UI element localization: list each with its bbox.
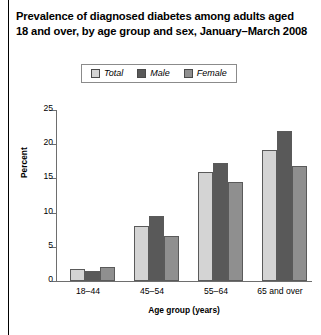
- chart-title: Prevalence of diagnosed diabetes among a…: [16, 9, 308, 39]
- y-tick-label: 25: [43, 104, 53, 113]
- bar-group: [262, 110, 307, 281]
- bar[interactable]: [85, 271, 100, 281]
- bar-group: [198, 110, 243, 281]
- figure: Prevalence of diagnosed diabetes among a…: [0, 0, 321, 335]
- bar[interactable]: [134, 226, 149, 281]
- x-tick-label: 18–44: [56, 287, 120, 296]
- chart-legend: Total Male Female: [81, 64, 237, 83]
- y-axis-line: [56, 110, 57, 282]
- legend-item-total[interactable]: Total: [91, 69, 123, 78]
- plot-area: 0510152025 18–4445–5455–6465 and over Ag…: [56, 110, 312, 281]
- legend-item-female[interactable]: Female: [184, 69, 227, 78]
- legend-label-female: Female: [197, 69, 227, 78]
- y-axis-title: Percent: [20, 147, 28, 178]
- bar[interactable]: [100, 267, 115, 281]
- bar[interactable]: [262, 150, 277, 281]
- legend-swatch-total: [91, 69, 100, 78]
- bar-group: [70, 110, 115, 281]
- legend-swatch-male: [137, 69, 146, 78]
- x-axis-line: [56, 281, 312, 282]
- bar-group: [134, 110, 179, 281]
- bar[interactable]: [213, 163, 228, 281]
- x-tick-label: 65 and over: [248, 287, 312, 296]
- x-tick-label: 45–54: [120, 287, 184, 296]
- bar[interactable]: [228, 182, 243, 281]
- legend-label-male: Male: [150, 69, 170, 78]
- y-tick-label: 20: [43, 138, 53, 147]
- legend-item-male[interactable]: Male: [137, 69, 170, 78]
- x-tick-label: 55–64: [184, 287, 248, 296]
- page-left-rule: [8, 0, 9, 335]
- legend-label-total: Total: [104, 69, 123, 78]
- bar[interactable]: [277, 131, 292, 281]
- legend-swatch-female: [184, 69, 193, 78]
- y-tick-label: 15: [43, 172, 53, 181]
- bar[interactable]: [292, 166, 307, 281]
- bar[interactable]: [70, 269, 85, 281]
- y-tick-label: 0: [48, 275, 53, 284]
- bar[interactable]: [198, 172, 213, 281]
- x-axis-title: Age group (years): [56, 306, 312, 314]
- bar[interactable]: [149, 216, 164, 281]
- bar[interactable]: [164, 236, 179, 281]
- y-tick-label: 5: [48, 241, 53, 250]
- y-tick-label: 10: [43, 207, 53, 216]
